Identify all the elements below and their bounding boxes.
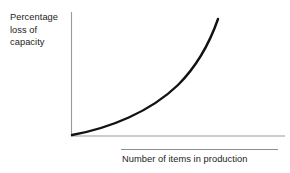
x-axis-label: Number of items in production bbox=[122, 153, 282, 165]
chart-figure: Percentage loss of capacity Number of it… bbox=[0, 0, 290, 173]
data-curve bbox=[72, 19, 218, 135]
plot-area bbox=[0, 0, 290, 173]
x-label-rule bbox=[121, 149, 278, 150]
